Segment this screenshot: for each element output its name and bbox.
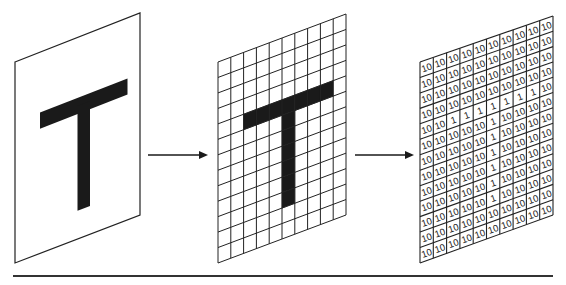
pixel-grid-panel [218, 14, 346, 263]
arrow-icon [148, 151, 208, 159]
digitization-diagram: 1010101010101010101010101010101010101010… [0, 0, 566, 285]
letter-t-stem [78, 101, 91, 211]
letter-t-image-panel [15, 13, 140, 263]
numeric-matrix-panel: 1010101010101010101010101010101010101010… [420, 16, 553, 263]
arrow-icon [355, 151, 414, 159]
